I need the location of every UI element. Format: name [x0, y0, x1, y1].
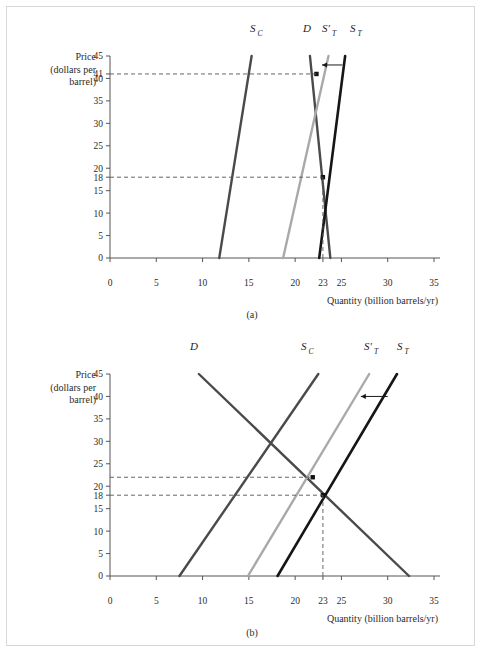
- x-tick-label: 25: [337, 278, 347, 288]
- figure-page: 05101518202530354041450510152023253035Pr…: [0, 0, 481, 652]
- y-tick-label: 0: [98, 571, 103, 581]
- y-tick-label: 25: [94, 459, 104, 469]
- y-tick-label: 35: [94, 96, 104, 106]
- y-tick-label: 5: [98, 231, 103, 241]
- y-tick-label: 20: [94, 164, 104, 174]
- y-tick-label: 25: [94, 141, 104, 151]
- curve-st: [248, 374, 369, 576]
- curve-label-main: D: [302, 22, 311, 34]
- y-axis-title-line: barrel): [69, 76, 96, 88]
- y-axis-title-line: Price: [75, 369, 96, 380]
- x-tick-label: 30: [383, 278, 393, 288]
- curve-label-st-shifted: S'T: [364, 340, 379, 356]
- curve-label-d: D: [189, 340, 198, 352]
- x-tick-label: 0: [108, 596, 113, 606]
- curve-st: [283, 56, 328, 258]
- panel-caption: (a): [246, 309, 257, 321]
- x-tick-label: 35: [429, 278, 439, 288]
- y-axis-title-line: (dollars per: [50, 64, 96, 76]
- x-tick-label: 20: [290, 596, 300, 606]
- curve-label-main: D: [189, 340, 198, 352]
- y-tick-label: 0: [98, 253, 103, 263]
- y-axis-title-line: (dollars per: [50, 382, 96, 394]
- y-tick-label: 15: [94, 186, 104, 196]
- curve-label-main: S: [397, 340, 403, 352]
- curve-sc: [219, 56, 251, 258]
- x-tick-label: 23: [318, 596, 328, 606]
- curve-label-main: S: [350, 22, 356, 34]
- x-axis-title: Quantity (billion barrels/yr): [327, 295, 438, 307]
- x-axis-title: Quantity (billion barrels/yr): [327, 613, 438, 625]
- equilibrium-point: [311, 475, 315, 479]
- x-tick-label: 15: [244, 596, 254, 606]
- chart-panel-b: 051015182025303540450510152023253035Pric…: [0, 322, 469, 640]
- x-tick-label: 23: [318, 278, 328, 288]
- y-tick-label: 18: [94, 173, 104, 183]
- curve-d: [310, 56, 330, 258]
- y-axis-title-line: Price: [75, 51, 96, 62]
- y-tick-label: 20: [94, 482, 104, 492]
- curve-label-main: S: [250, 22, 256, 34]
- y-tick-label: 10: [94, 209, 104, 219]
- y-tick-label: 30: [94, 437, 104, 447]
- curve-label-subscript: T: [358, 29, 363, 38]
- x-tick-label: 25: [337, 596, 347, 606]
- y-axis-title-line: barrel): [69, 394, 96, 406]
- y-tick-label: 5: [98, 549, 103, 559]
- x-tick-label: 10: [198, 596, 208, 606]
- x-tick-label: 35: [429, 596, 439, 606]
- x-tick-label: 10: [198, 278, 208, 288]
- chart-b-svg: 051015182025303540450510152023253035Pric…: [0, 322, 469, 640]
- curve-label-subscript: T: [374, 347, 379, 356]
- curve-sc: [179, 374, 318, 576]
- y-tick-label: 35: [94, 414, 104, 424]
- curve-label-subscript: C: [258, 29, 264, 38]
- curve-label-main: S': [322, 22, 331, 34]
- curve-d: [199, 374, 409, 576]
- x-tick-label: 0: [108, 278, 113, 288]
- y-tick-label: 18: [94, 491, 104, 501]
- shift-arrow-head: [361, 394, 366, 399]
- curve-label-st: ST: [397, 340, 410, 356]
- y-tick-label: 10: [94, 527, 104, 537]
- curve-label-main: S: [301, 340, 307, 352]
- curve-label-st: ST: [350, 22, 363, 38]
- shift-arrow-head: [322, 62, 327, 67]
- curve-label-subscript: T: [405, 347, 410, 356]
- curve-label-sc: SC: [301, 340, 315, 356]
- x-tick-label: 30: [383, 596, 393, 606]
- curve-label-sc: SC: [250, 22, 264, 38]
- x-tick-label: 15: [244, 278, 254, 288]
- x-tick-label: 20: [290, 278, 300, 288]
- chart-panel-a: 05101518202530354041450510152023253035Pr…: [0, 0, 469, 322]
- chart-a-svg: 05101518202530354041450510152023253035Pr…: [0, 0, 469, 322]
- y-tick-label: 15: [94, 504, 104, 514]
- panel-caption: (b): [246, 627, 258, 639]
- curve-label-d: D: [302, 22, 311, 34]
- y-tick-label: 30: [94, 119, 104, 129]
- curve-label-subscript: T: [332, 29, 337, 38]
- curve-label-subscript: C: [309, 347, 315, 356]
- x-tick-label: 5: [154, 596, 159, 606]
- curve-label-main: S': [364, 340, 373, 352]
- curve-label-st-shifted: S'T: [322, 22, 337, 38]
- x-tick-label: 5: [154, 278, 159, 288]
